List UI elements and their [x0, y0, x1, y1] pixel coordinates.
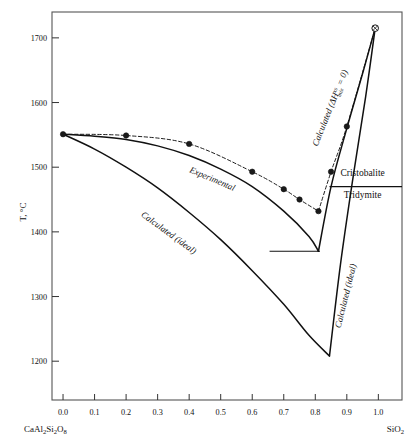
x-tick-label: 0.9	[342, 408, 352, 417]
y-tick-label: 1400	[31, 228, 47, 237]
x-tick-label: 1.0	[373, 408, 383, 417]
x-tick-label: 0.0	[58, 408, 68, 417]
y-tick-label: 1200	[31, 357, 47, 366]
marker-data-point	[281, 186, 286, 191]
marker-data-point	[123, 133, 128, 138]
marker-data-point	[186, 141, 191, 146]
marker-data-point	[297, 197, 302, 202]
y-tick-label: 1300	[31, 293, 47, 302]
figure-background	[0, 0, 420, 443]
y-tick-label: 1700	[31, 34, 47, 43]
y-tick-label: 1500	[31, 163, 47, 172]
x-tick-label: 0.4	[184, 408, 194, 417]
marker-data-point	[328, 169, 333, 174]
marker-data-point	[250, 169, 255, 174]
x-tick-label: 0.1	[89, 408, 99, 417]
x-tick-label: 0.3	[153, 408, 163, 417]
left-endmember-label: CaAl2Si2O8	[24, 424, 68, 435]
cristobalite-label: Cristobalite	[340, 168, 384, 178]
tridymite-label: Tridymite	[344, 190, 382, 200]
y-axis-title: T, °C	[18, 203, 28, 222]
marker-data-point	[60, 132, 65, 137]
x-tick-label: 0.5	[216, 408, 226, 417]
x-tick-label: 0.7	[279, 408, 289, 417]
marker-data-point	[316, 208, 321, 213]
x-tick-label: 0.2	[121, 408, 131, 417]
phase-diagram-figure: 0.00.10.20.30.40.50.60.70.80.91.0 120013…	[0, 0, 420, 443]
x-tick-label: 0.8	[310, 408, 320, 417]
phase-diagram-svg: 0.00.10.20.30.40.50.60.70.80.91.0 120013…	[0, 0, 420, 443]
marker-data-point	[344, 124, 349, 129]
y-tick-label: 1600	[31, 99, 47, 108]
x-tick-label: 0.6	[247, 408, 257, 417]
